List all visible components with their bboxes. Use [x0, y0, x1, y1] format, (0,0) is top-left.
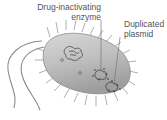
label-drug-inactivating-enzyme: Drug-inactivating enzyme	[33, 3, 101, 22]
label-line: plasmid	[124, 30, 166, 40]
label-duplicated-plasmid: Duplicated plasmid	[124, 20, 166, 39]
flagella	[8, 41, 44, 110]
label-line: enzyme	[33, 13, 101, 23]
bacterium-diagram: Drug-inactivating enzyme Duplicated plas…	[0, 0, 167, 120]
